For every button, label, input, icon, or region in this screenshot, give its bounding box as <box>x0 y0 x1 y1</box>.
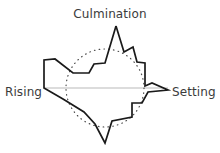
setting-label: Setting <box>172 85 216 99</box>
celestial-path-diagram: Culmination Rising Setting <box>0 0 220 153</box>
rising-label: Rising <box>5 85 42 99</box>
diagram-canvas: Culmination Rising Setting <box>0 0 220 153</box>
culmination-label: Culmination <box>73 7 146 21</box>
